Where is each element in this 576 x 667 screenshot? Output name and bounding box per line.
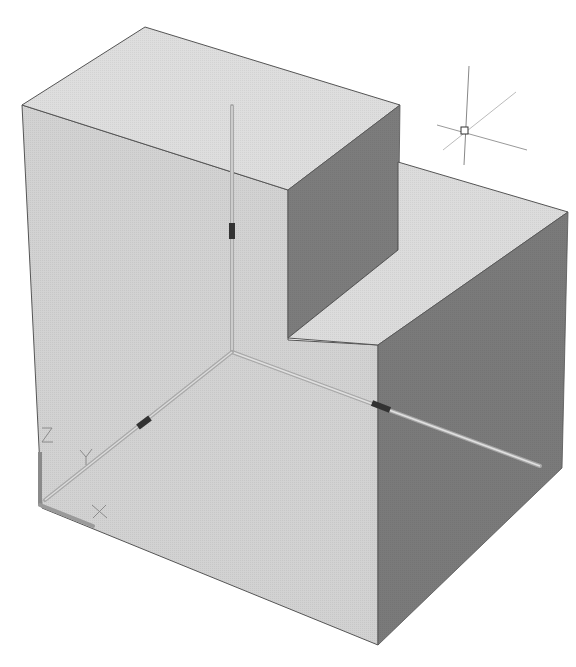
pickbox-icon — [461, 127, 468, 134]
grip-z[interactable] — [229, 223, 235, 239]
3d-model-viewport[interactable] — [0, 0, 576, 667]
solid-model[interactable] — [22, 27, 568, 645]
crosshair-cursor — [437, 66, 527, 165]
